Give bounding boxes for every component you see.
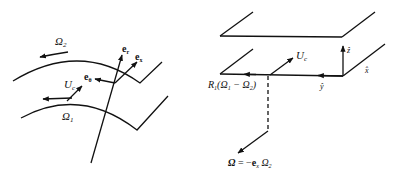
wall-velocity-label: R1(Ω1 − Ω2): [207, 79, 257, 91]
left-figure: [13, 52, 168, 163]
e-theta-arrow: [95, 79, 115, 83]
e-x-label: ex: [135, 51, 142, 63]
y-hat-label: ŷ: [319, 82, 324, 91]
top-plate-right-edge: [342, 12, 375, 37]
x-hat-label: x̂: [364, 66, 369, 75]
omega2-arrow: [40, 52, 68, 57]
e-theta-label: eθ: [84, 71, 92, 83]
omega1-label: Ω1: [62, 110, 73, 124]
omega-equation-label: Ω = −ex Ω2: [228, 157, 272, 169]
rotating-cylinders-diagram: Ω2 Ω1 er ex eθ Uc Uc ẑ x̂ ŷ R1(Ω1 − Ω2) …: [0, 0, 400, 173]
top-plate-front: [220, 36, 342, 37]
omega1-arrow: [43, 98, 72, 99]
y-hat-arrow: [318, 76, 343, 77]
radial-axis-line: [91, 55, 122, 163]
right-labels: Uc ẑ x̂ ŷ R1(Ω1 − Ω2) Ω = −ex Ω2: [207, 46, 369, 169]
diagram-canvas: Ω2 Ω1 er ex eθ Uc Uc ẑ x̂ ŷ R1(Ω1 − Ω2) …: [0, 0, 400, 173]
e-x-arrow: [115, 62, 137, 83]
inner-cylinder-arc: [21, 96, 168, 130]
omega2-label: Ω2: [55, 35, 67, 49]
top-plate-left-edge: [220, 12, 253, 36]
e-r-label: er: [122, 43, 129, 55]
z-hat-label: ẑ: [346, 46, 351, 55]
u-c-label: Uc: [64, 78, 76, 92]
bottom-plate-left-edge: [220, 49, 253, 74]
omega-vector-arrow: [238, 131, 268, 153]
u-c-label-right: Uc: [296, 49, 308, 63]
u-c-arrow-right: [270, 58, 293, 75]
